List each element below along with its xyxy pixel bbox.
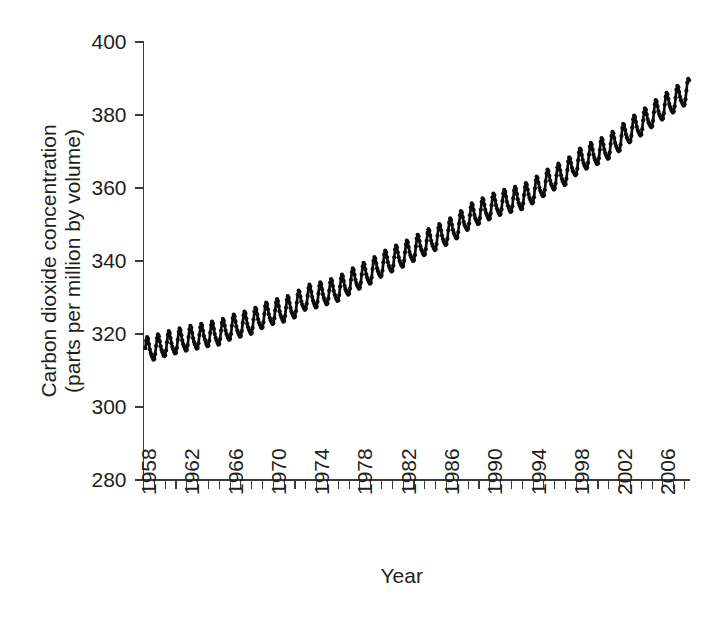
data-point — [305, 302, 309, 306]
data-point — [575, 167, 579, 171]
data-point — [186, 335, 190, 339]
data-point — [467, 221, 471, 225]
data-point — [492, 193, 496, 197]
data-point — [565, 168, 569, 172]
data-point — [417, 239, 421, 243]
data-point — [644, 108, 648, 112]
data-point — [662, 111, 666, 115]
data-point — [336, 298, 340, 302]
data-point — [522, 193, 526, 197]
x-tick-label-1962: 1962 — [180, 448, 203, 495]
data-point — [310, 295, 314, 299]
data-point — [477, 221, 481, 225]
data-point — [450, 223, 454, 227]
data-point — [251, 326, 255, 330]
data-point — [326, 296, 330, 300]
x-tick-label-2002: 2002 — [613, 448, 636, 495]
data-point — [449, 218, 453, 222]
data-point — [564, 177, 568, 181]
data-point — [332, 289, 336, 293]
data-point — [241, 321, 245, 325]
data-point — [262, 312, 266, 316]
data-point — [568, 156, 572, 160]
data-point — [349, 278, 353, 282]
data-point — [239, 334, 243, 338]
data-point — [370, 267, 374, 271]
data-point — [331, 284, 335, 288]
data-point — [308, 284, 312, 288]
y-axis-title-line1: Carbon dioxide concentration — [37, 124, 60, 397]
data-point — [271, 321, 275, 325]
data-point — [401, 264, 405, 268]
data-point — [207, 339, 211, 343]
x-tick-label-1966: 1966 — [224, 448, 247, 495]
data-point — [297, 290, 301, 294]
data-point — [189, 326, 193, 330]
data-point — [320, 287, 324, 291]
data-point — [591, 147, 595, 151]
data-point — [148, 347, 152, 351]
data-point — [558, 168, 562, 172]
data-point — [206, 343, 210, 347]
data-point — [428, 234, 432, 238]
data-point — [217, 342, 221, 346]
data-point — [407, 245, 411, 249]
data-point — [348, 286, 352, 290]
data-point — [213, 332, 217, 336]
data-point — [424, 247, 428, 251]
data-point — [622, 123, 626, 127]
data-point — [509, 209, 513, 213]
data-point — [266, 307, 270, 311]
data-point — [276, 299, 280, 303]
data-point — [444, 242, 448, 246]
data-point — [163, 353, 167, 357]
data-point — [554, 181, 558, 185]
data-point — [243, 311, 247, 315]
data-point — [479, 208, 483, 212]
data-point — [438, 224, 442, 228]
data-point — [152, 357, 156, 361]
data-point — [682, 103, 686, 107]
data-point — [601, 143, 605, 147]
data-point — [481, 198, 485, 202]
data-point — [600, 138, 604, 142]
data-point — [544, 179, 548, 183]
data-point — [147, 342, 151, 346]
data-point — [244, 316, 248, 320]
data-point — [330, 279, 334, 283]
data-point — [325, 301, 329, 305]
data-point — [309, 290, 313, 294]
data-point — [374, 261, 378, 265]
x-tick-label-1990: 1990 — [483, 448, 506, 495]
data-point — [655, 104, 659, 108]
data-point — [174, 351, 178, 355]
data-point — [672, 109, 676, 113]
data-point — [425, 239, 429, 243]
x-tick-label-1982: 1982 — [397, 448, 420, 495]
data-point — [196, 346, 200, 350]
data-point — [554, 173, 558, 177]
data-point — [607, 156, 611, 160]
data-point — [488, 216, 492, 220]
data-point — [630, 125, 634, 129]
data-point — [321, 292, 325, 296]
data-point — [612, 136, 616, 140]
data-point — [379, 274, 383, 278]
data-point — [520, 207, 524, 211]
data-point — [212, 327, 216, 331]
data-point — [645, 112, 649, 116]
data-point — [673, 104, 677, 108]
data-point — [666, 97, 670, 101]
data-point — [461, 215, 465, 219]
data-point — [629, 134, 633, 138]
data-point — [640, 127, 644, 131]
data-point — [295, 301, 299, 305]
data-point — [650, 124, 654, 128]
data-point — [619, 134, 623, 138]
data-point — [460, 210, 464, 214]
data-point — [260, 325, 264, 329]
data-point — [569, 161, 573, 165]
data-point — [390, 269, 394, 273]
data-point — [503, 189, 507, 193]
data-point — [165, 340, 169, 344]
